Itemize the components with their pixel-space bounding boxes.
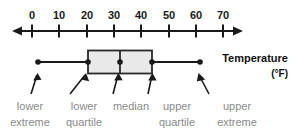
- arrowhead-upper-extreme: [197, 73, 205, 82]
- axis-title-temperature: Temperature: [222, 52, 288, 64]
- lower-quartile-point: [85, 59, 91, 65]
- arrowhead-lower-extreme: [33, 73, 41, 81]
- annotation-arrowheads: [33, 73, 205, 82]
- tick-label-20: 20: [81, 9, 93, 21]
- median-point: [117, 59, 123, 65]
- axis-title-units: (°F): [271, 68, 288, 79]
- tick-label-10: 10: [53, 9, 65, 21]
- box-plot-svg: 0 10 20 30 40 50 60 70 Temperature: [0, 0, 293, 140]
- axis-left-arrowhead: [12, 26, 22, 35]
- tick-label-30: 30: [108, 9, 120, 21]
- axis-tick-labels: 0 10 20 30 40 50 60 70: [29, 9, 229, 21]
- number-line-axis: 0 10 20 30 40 50 60 70: [12, 9, 243, 38]
- label-upper-extreme-line2: extreme: [217, 116, 257, 128]
- label-lower-quartile-line1: lower: [71, 100, 98, 112]
- label-lower-extreme-line1: lower: [17, 100, 44, 112]
- tick-label-60: 60: [190, 9, 202, 21]
- box-whisker-plot: [35, 51, 203, 74]
- axis-right-arrowhead: [233, 26, 243, 35]
- label-median-line1: median: [113, 100, 149, 112]
- label-lower-quartile-line2: quartile: [66, 116, 102, 128]
- tick-label-0: 0: [29, 9, 35, 21]
- upper-quartile-point: [149, 59, 155, 65]
- tick-label-40: 40: [135, 9, 147, 21]
- lower-extreme-point: [35, 59, 41, 65]
- box-plot-figure: 0 10 20 30 40 50 60 70 Temperature: [0, 0, 293, 140]
- label-upper-extreme-line1: upper: [223, 100, 251, 112]
- label-upper-quartile-line2: quartile: [159, 116, 195, 128]
- tick-label-50: 50: [163, 9, 175, 21]
- axis-title-group: Temperature (°F): [222, 52, 288, 79]
- annotation-labels: lower extreme lower quartile median uppe…: [10, 100, 257, 128]
- label-lower-extreme-line2: extreme: [10, 116, 50, 128]
- tick-label-70: 70: [217, 9, 229, 21]
- label-upper-quartile-line1: upper: [163, 100, 191, 112]
- upper-extreme-point: [197, 59, 203, 65]
